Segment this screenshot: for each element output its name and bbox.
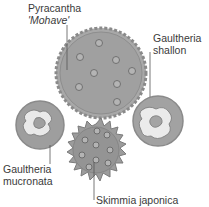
label-gaultheria-mucronata-line2: mucronata	[3, 175, 53, 187]
label-gaultheria-mucronata-line1: Gaultheria	[3, 163, 51, 175]
label-pyracantha-line1: Pyracantha	[28, 2, 81, 14]
gaultheria-shallon-shrub	[133, 96, 183, 146]
label-skimmia: Skimmia japonica	[96, 194, 178, 206]
label-pyracantha-cultivar: 'Mohave'	[28, 14, 69, 26]
label-pyracantha-line2: 'Mohave'	[28, 14, 69, 26]
label-gaultheria-shallon-line2: shallon	[153, 44, 186, 56]
skimmia-shrub	[67, 118, 126, 181]
label-gaultheria-shallon-line1: Gaultheria	[153, 32, 201, 44]
gaultheria-mucronata-shrub	[16, 101, 64, 149]
pyracantha-shrub	[56, 28, 146, 118]
